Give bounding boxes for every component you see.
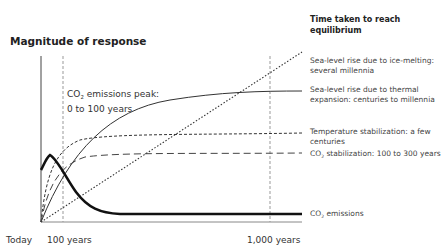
x-tick-today: Today <box>6 235 32 245</box>
legend-temperature: Temperature stabilization: a few centuri… <box>310 127 442 146</box>
legend-co2-stabilization: CO2 stabilization: 100 to 300 years <box>310 149 442 162</box>
series-co2-stabilization <box>41 153 302 222</box>
legend-title: Time taken to reach equilibrium <box>310 14 440 36</box>
x-tick-1000-years: 1,000 years <box>247 235 300 245</box>
series-temperature <box>41 133 302 222</box>
legend-co2-emissions: CO2 emissions <box>310 209 442 222</box>
y-axis-title: Magnitude of response <box>10 35 146 47</box>
series-co2-emissions <box>41 155 302 214</box>
legend-ice-melt: Sea-level rise due to ice-melting: sever… <box>310 56 442 75</box>
emissions-peak-annotation: CO2 emissions peak: 0 to 100 years <box>67 88 159 115</box>
x-tick-100-years: 100 years <box>47 235 92 245</box>
legend-thermal-expansion: Sea-level rise due to thermal expansion:… <box>310 85 442 104</box>
